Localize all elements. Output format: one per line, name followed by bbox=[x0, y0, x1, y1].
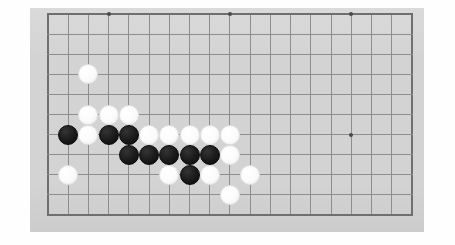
white-stone-c10r8[interactable] bbox=[240, 165, 260, 185]
black-stone-c7r8[interactable] bbox=[180, 165, 200, 185]
white-stone-c9r7[interactable] bbox=[220, 145, 240, 165]
black-stone-c5r7[interactable] bbox=[139, 145, 159, 165]
white-stone-c2r6[interactable] bbox=[78, 125, 98, 145]
black-stone-c7r7[interactable] bbox=[180, 145, 200, 165]
white-stone-c2r3[interactable] bbox=[78, 64, 98, 84]
go-board-screenshot bbox=[0, 0, 455, 245]
black-stone-c6r7[interactable] bbox=[159, 145, 179, 165]
black-stone-c4r7[interactable] bbox=[119, 145, 139, 165]
white-stone-c6r6[interactable] bbox=[159, 125, 179, 145]
white-stone-c8r8[interactable] bbox=[200, 165, 220, 185]
white-stone-c4r5[interactable] bbox=[119, 105, 139, 125]
white-stone-c7r6[interactable] bbox=[180, 125, 200, 145]
white-stone-c2r5[interactable] bbox=[78, 105, 98, 125]
white-stone-c8r6[interactable] bbox=[200, 125, 220, 145]
black-stone-c3r6[interactable] bbox=[99, 125, 119, 145]
black-stone-c8r7[interactable] bbox=[200, 145, 220, 165]
black-stone-c4r6[interactable] bbox=[119, 125, 139, 145]
white-stone-c1r8[interactable] bbox=[58, 165, 78, 185]
stone-layer[interactable] bbox=[0, 0, 455, 245]
black-stone-c1r6[interactable] bbox=[58, 125, 78, 145]
white-stone-c9r6[interactable] bbox=[220, 125, 240, 145]
white-stone-c9r9[interactable] bbox=[220, 185, 240, 205]
white-stone-c5r6[interactable] bbox=[139, 125, 159, 145]
white-stone-c6r8[interactable] bbox=[159, 165, 179, 185]
white-stone-c3r5[interactable] bbox=[99, 105, 119, 125]
